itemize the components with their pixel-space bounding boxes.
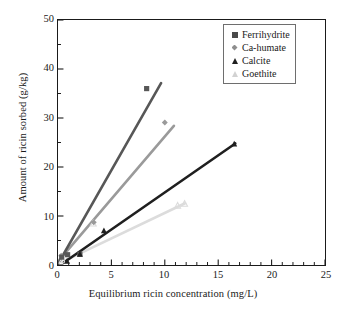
legend-item[interactable]: Ferrihydrite [228,28,290,41]
triangle-open-icon [228,71,241,77]
legend-label: Goethite [241,67,276,80]
y-tick-label: 20 [28,161,54,172]
trend-line-ca-humate [60,126,174,260]
x-tick-label: 25 [311,269,341,280]
y-axis-title: Amount of ricin sorbed (g/kg) [17,28,28,248]
legend: Ferrihydrite Ca-humate Calcite Goethite [223,24,296,84]
x-tick-label: 10 [149,269,179,280]
x-tick-label: 0 [42,269,72,280]
legend-item[interactable]: Ca-humate [228,41,290,54]
y-tick-label: 10 [28,211,54,222]
figure: 50 40 30 20 10 0 0 5 10 15 20 25 Equilib… [0,0,346,314]
x-axis-title: Equilibrium ricin concentration (mg/L) [0,288,346,299]
legend-label: Calcite [241,54,270,67]
data-point-ferrihydrite [65,252,70,257]
trend-line-calcite [64,143,235,262]
x-tick-label: 20 [257,269,287,280]
y-tick-label: 30 [28,112,54,123]
legend-item[interactable]: Goethite [228,67,290,80]
legend-label: Ca-humate [241,41,286,54]
y-tick-label: 40 [28,62,54,73]
square-filled-icon [228,32,241,38]
data-point-ca-humate [162,119,168,125]
data-point-ferrihydrite [144,86,149,91]
x-tick-label: 5 [96,269,126,280]
data-point-calcite [101,228,107,234]
triangle-filled-icon [228,58,241,64]
diamond-filled-icon [228,45,241,51]
legend-label: Ferrihydrite [241,28,290,41]
y-tick-label: 50 [28,13,54,24]
trend-line-ferrihydrite [59,83,161,262]
x-tick-label: 15 [203,269,233,280]
legend-item[interactable]: Calcite [228,54,290,67]
data-point-ferrihydrite [59,255,64,260]
